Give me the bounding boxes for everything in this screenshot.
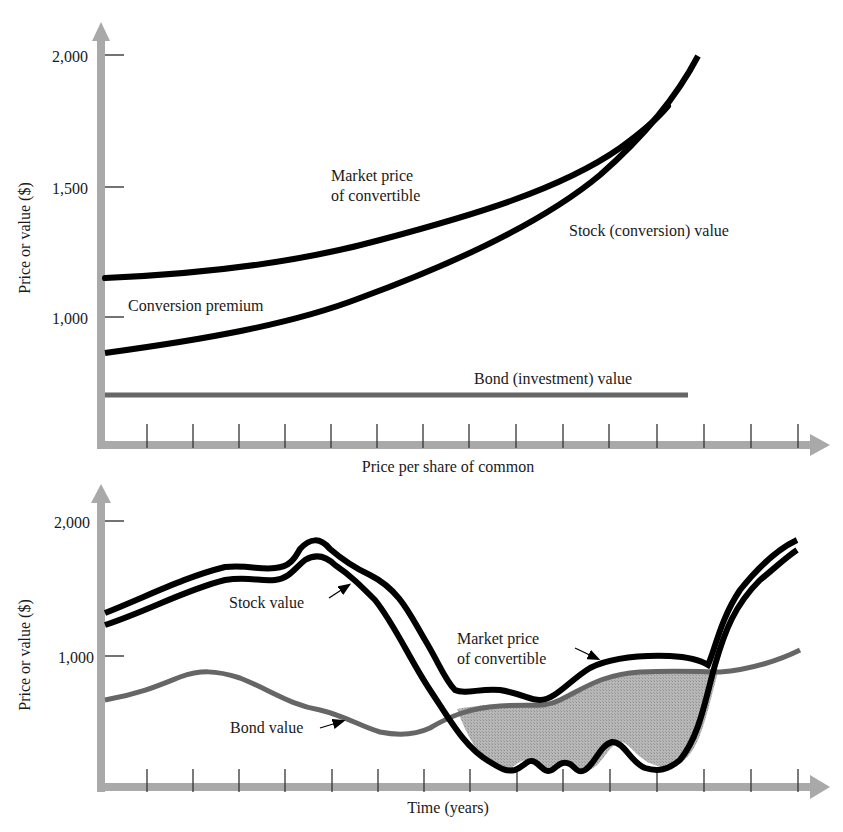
top-ytick-1500: 1,500 bbox=[52, 180, 88, 197]
x-axis-arrow-icon bbox=[810, 775, 830, 799]
bottom-chart: 2,000 1,000 Price or value ($) Time (yea… bbox=[16, 484, 830, 817]
top-x-axis bbox=[97, 424, 830, 456]
bottom-label-bond-value: Bond value bbox=[230, 719, 303, 736]
x-axis-arrow-icon bbox=[810, 434, 830, 456]
top-ytick-2000: 2,000 bbox=[52, 48, 88, 65]
bottom-label-stock-value: Stock value bbox=[229, 594, 304, 611]
y-axis-arrow-icon bbox=[91, 484, 111, 503]
bottom-y-axis-label: Price or value ($) bbox=[16, 599, 34, 711]
top-label-stock-value: Stock (conversion) value bbox=[569, 222, 729, 240]
convertible-bond-figure: 2,000 1,500 1,000 Price or value ($) Pri… bbox=[0, 0, 843, 832]
stock-value-arrow-icon bbox=[329, 585, 349, 598]
top-x-axis-label: Price per share of common bbox=[362, 458, 534, 476]
bottom-label-market-price-1: Market price bbox=[457, 630, 539, 648]
y-axis-arrow-icon bbox=[92, 22, 110, 41]
top-label-market-price-1: Market price bbox=[331, 167, 413, 185]
top-label-market-price-2: of convertible bbox=[331, 187, 420, 204]
bottom-label-market-price-2: of convertible bbox=[457, 650, 546, 667]
top-y-axis bbox=[92, 22, 124, 448]
top-ytick-1000: 1,000 bbox=[52, 310, 88, 327]
top-label-bond-value: Bond (investment) value bbox=[474, 370, 632, 388]
market-price-arrow-icon bbox=[575, 648, 598, 659]
bottom-ytick-1000: 1,000 bbox=[58, 649, 94, 666]
top-label-conversion-premium: Conversion premium bbox=[128, 297, 264, 315]
bond-value-arrow-icon bbox=[320, 721, 343, 728]
bottom-y-axis bbox=[91, 484, 124, 792]
bottom-x-axis-label: Time (years) bbox=[407, 799, 489, 817]
bottom-ytick-2000: 2,000 bbox=[54, 514, 90, 531]
top-chart: 2,000 1,500 1,000 Price or value ($) Pri… bbox=[16, 22, 830, 476]
bottom-x-axis bbox=[97, 769, 830, 799]
top-y-axis-label: Price or value ($) bbox=[16, 182, 34, 294]
